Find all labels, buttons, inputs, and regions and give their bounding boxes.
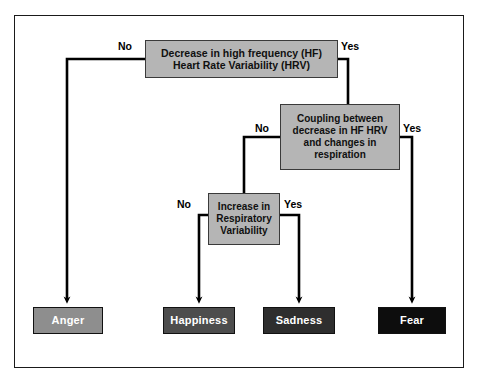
node-hrv-text: Decrease in high frequency (HF) Heart Ra… bbox=[161, 47, 322, 72]
edge-hrv-no bbox=[67, 59, 145, 300]
outcome-node-anger[interactable]: Anger bbox=[33, 307, 103, 334]
outcome-node-fear[interactable]: Fear bbox=[378, 307, 446, 334]
edge-coupling-no bbox=[244, 137, 280, 193]
node-respiratory-text: Increase in Respiratory Variability bbox=[216, 201, 272, 236]
edge-resp-no bbox=[199, 215, 208, 300]
edge-label-respiratory-no: No bbox=[176, 198, 192, 210]
decision-node-respiratory[interactable]: Increase in Respiratory Variability bbox=[208, 193, 280, 245]
node-coupling-text: Coupling between decrease in HF HRV and … bbox=[293, 113, 388, 160]
decision-node-coupling[interactable]: Coupling between decrease in HF HRV and … bbox=[280, 104, 400, 170]
edge-label-coupling-yes: Yes bbox=[402, 122, 422, 134]
edge-resp-yes bbox=[280, 215, 299, 300]
edge-coupling-yes bbox=[400, 137, 412, 300]
edge-label-coupling-no: No bbox=[254, 122, 270, 134]
edge-label-hrv-no: No bbox=[117, 40, 133, 52]
decision-node-hrv[interactable]: Decrease in high frequency (HF) Heart Ra… bbox=[145, 40, 338, 78]
outcome-node-happiness[interactable]: Happiness bbox=[163, 307, 235, 334]
outcome-node-sadness[interactable]: Sadness bbox=[263, 307, 335, 334]
edge-label-hrv-yes: Yes bbox=[340, 40, 360, 52]
edge-hrv-yes bbox=[338, 59, 348, 104]
diagram-canvas: Decrease in high frequency (HF) Heart Ra… bbox=[0, 0, 478, 385]
edge-label-respiratory-yes: Yes bbox=[283, 198, 303, 210]
